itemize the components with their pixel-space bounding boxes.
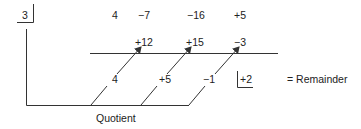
product: +12 <box>135 36 153 48</box>
coefficient: +5 <box>234 9 246 21</box>
quotient-label: Quotient <box>96 112 136 124</box>
coefficient: 4 <box>112 9 118 21</box>
arrow-icon <box>141 86 157 105</box>
quotient-frame <box>27 29 190 106</box>
arrow-icon <box>117 47 141 74</box>
diagram-lines <box>0 0 361 129</box>
quotient-value: 4 <box>112 73 118 85</box>
coefficient: −7 <box>138 9 150 21</box>
quotient-value: +5 <box>159 73 171 85</box>
arrow-icon <box>167 47 191 74</box>
divisor: 3 <box>22 9 28 21</box>
quotient-value: −1 <box>203 73 215 85</box>
product: −3 <box>234 36 246 48</box>
remainder-label: = Remainder <box>287 73 347 85</box>
coefficient: −16 <box>187 9 205 21</box>
remainder-value: +2 <box>240 73 252 85</box>
product: +15 <box>186 36 204 48</box>
arrow-icon <box>91 86 107 105</box>
arrow-icon <box>189 86 205 105</box>
arrow-icon <box>215 47 239 74</box>
